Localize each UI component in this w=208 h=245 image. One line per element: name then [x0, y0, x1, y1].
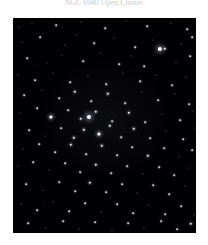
star — [32, 161, 34, 163]
star — [171, 84, 173, 86]
star — [39, 36, 41, 38]
star — [69, 81, 71, 83]
star — [105, 83, 107, 85]
star — [79, 171, 81, 173]
star — [55, 24, 57, 26]
star — [152, 184, 154, 186]
star — [139, 80, 141, 82]
star — [110, 172, 112, 174]
background-noise — [13, 18, 196, 233]
star — [54, 151, 56, 153]
star — [176, 228, 178, 230]
star — [188, 103, 190, 105]
star — [67, 109, 69, 111]
star — [157, 99, 159, 101]
star — [85, 153, 87, 155]
star — [58, 181, 60, 183]
star — [25, 183, 27, 185]
star — [179, 119, 181, 121]
star — [144, 121, 146, 123]
star-field-image — [13, 18, 196, 233]
star — [105, 191, 107, 193]
star — [146, 25, 148, 27]
star — [158, 166, 160, 168]
star — [118, 63, 120, 65]
star — [121, 183, 123, 185]
star — [131, 146, 133, 148]
star — [68, 210, 70, 212]
star — [182, 138, 184, 140]
star — [163, 147, 165, 149]
star — [36, 209, 38, 211]
star — [191, 149, 193, 151]
star — [58, 97, 60, 99]
star — [94, 221, 96, 223]
star — [191, 36, 193, 38]
star — [36, 107, 38, 109]
image-caption: NGC 6940 Open Cluster — [0, 0, 208, 10]
star — [173, 174, 175, 176]
star — [23, 94, 25, 96]
star — [126, 165, 128, 167]
star — [134, 46, 136, 48]
star — [74, 190, 76, 192]
star — [116, 154, 118, 156]
star — [149, 137, 151, 139]
star — [27, 222, 29, 224]
star — [168, 193, 170, 195]
star — [180, 205, 182, 207]
star — [127, 222, 129, 224]
star — [64, 162, 66, 164]
star — [84, 202, 86, 204]
star — [143, 65, 145, 67]
star — [160, 220, 162, 222]
star — [120, 136, 122, 138]
star — [132, 212, 134, 214]
star — [111, 120, 113, 122]
star — [93, 42, 95, 44]
star — [116, 203, 118, 205]
star — [34, 79, 36, 81]
star — [62, 220, 64, 222]
star — [124, 102, 126, 104]
star — [60, 127, 62, 129]
star — [189, 55, 191, 57]
star — [90, 100, 92, 102]
star — [38, 143, 40, 145]
star — [28, 129, 30, 131]
star — [26, 57, 28, 59]
star — [82, 60, 84, 62]
star — [104, 27, 106, 29]
star — [164, 213, 166, 215]
star — [186, 28, 188, 30]
